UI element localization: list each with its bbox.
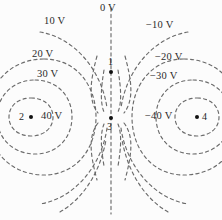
label-minus20v: −20 V bbox=[155, 52, 182, 63]
contour-near-axis-left-lower bbox=[101, 124, 104, 166]
contour-near-axis-right-lower2 bbox=[124, 123, 131, 180]
contour-tail-bottom-right bbox=[122, 140, 168, 212]
label-minus30v: −30 V bbox=[150, 71, 177, 82]
label-20v: 20 V bbox=[32, 49, 53, 60]
contour-near-axis-left-lower2 bbox=[91, 123, 98, 180]
point-label-3: 3 bbox=[107, 122, 112, 132]
contour-tail-bottom-left bbox=[60, 140, 106, 212]
contour-canvas bbox=[0, 0, 222, 220]
label-40v: 40 V bbox=[41, 111, 62, 122]
label-minus10v: −10 V bbox=[146, 20, 173, 31]
point-label-4: 4 bbox=[202, 112, 207, 122]
contour-near-axis-right-upper bbox=[118, 70, 121, 112]
point-label-1: 1 bbox=[108, 57, 113, 67]
equipotential-diagram: 0 V 10 V 20 V 30 V 40 V −10 V −20 V −30 … bbox=[0, 0, 222, 220]
label-0v: 0 V bbox=[100, 3, 116, 14]
contour-group bbox=[0, 8, 222, 214]
label-10v: 10 V bbox=[44, 16, 65, 27]
contour-near-axis-right-lower bbox=[118, 124, 121, 166]
contour-near-axis-left-upper2 bbox=[91, 56, 98, 113]
label-30v: 30 V bbox=[37, 69, 58, 80]
label-minus40v: −40 V bbox=[145, 111, 172, 122]
point-label-2: 2 bbox=[19, 112, 24, 122]
